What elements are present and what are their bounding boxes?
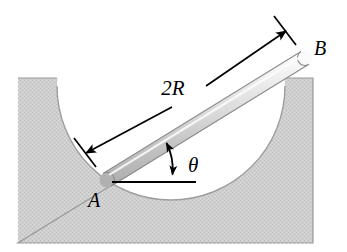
- point-b-label: B: [314, 37, 326, 59]
- angle-label: θ: [188, 153, 198, 177]
- point-a-label: A: [86, 189, 101, 211]
- block-with-cavity: [18, 78, 313, 243]
- physics-diagram-figure: 2R θ A B: [0, 0, 347, 252]
- block-body: [18, 78, 313, 243]
- length-label: 2R: [161, 76, 185, 100]
- dimension-tick-b: [274, 16, 296, 45]
- diagram-canvas: 2R θ A B: [0, 0, 347, 252]
